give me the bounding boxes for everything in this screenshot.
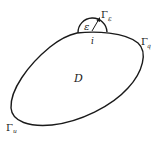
region-d-label: D [73,72,83,85]
svg-text:q: q [147,42,151,50]
point-i-label: i [91,36,94,46]
gamma-epsilon-label: Γ ε [101,9,112,23]
gamma-u-label: Γ u [6,122,17,134]
svg-text:Γ: Γ [6,122,13,133]
gamma-q-label: Γ q [141,36,151,50]
svg-text:ε: ε [108,15,112,23]
domain-diagram: ε i D Γ ε Γ q Γ u [0,0,153,143]
epsilon-label: ε [84,21,89,32]
svg-text:u: u [13,127,17,134]
arrowhead-icon [97,17,101,22]
svg-text:Γ: Γ [101,9,108,20]
